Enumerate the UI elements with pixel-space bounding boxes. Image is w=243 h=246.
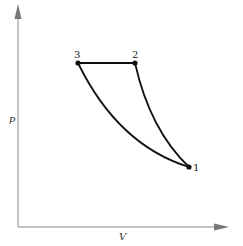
point-3-label: 3 xyxy=(74,49,80,60)
point-2-label: 2 xyxy=(132,49,138,60)
y-axis-label: p xyxy=(9,113,16,124)
x-axis-label: V xyxy=(119,231,128,242)
point-2 xyxy=(132,60,137,65)
point-1 xyxy=(186,164,191,169)
point-1-label: 1 xyxy=(193,162,199,173)
point-3 xyxy=(75,60,80,65)
path-1-to-3 xyxy=(78,63,189,167)
pv-diagram: p V 3 2 1 xyxy=(0,0,243,246)
path-2-to-1 xyxy=(135,63,189,167)
x-axis-arrow-icon xyxy=(214,224,229,231)
y-axis-arrow-icon xyxy=(15,4,22,19)
